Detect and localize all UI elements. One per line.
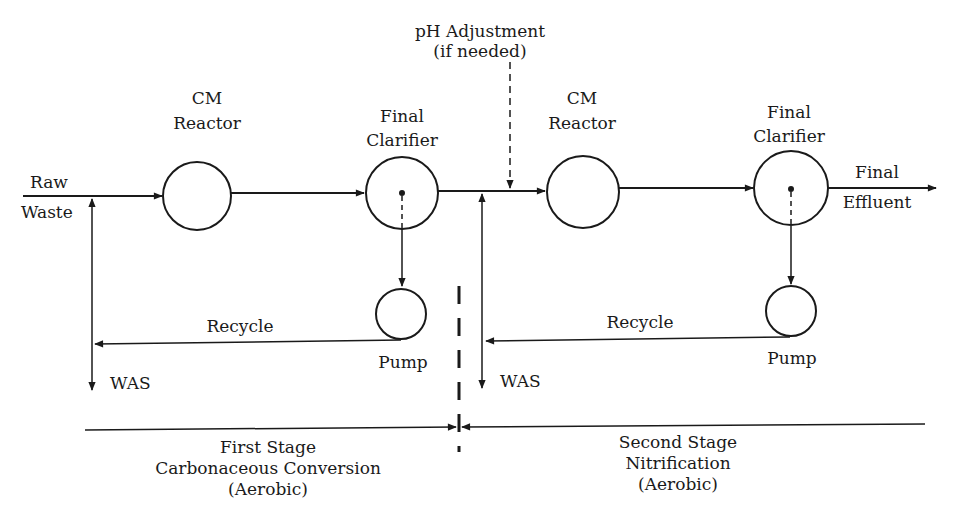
stage1-cm-reactor — [163, 162, 231, 230]
stage1-clarifier-label: Final — [380, 106, 424, 126]
stage1-recycle-line — [95, 340, 401, 344]
stage2-description: Second Stage — [619, 432, 737, 452]
stage1-recycle-label: Recycle — [206, 316, 273, 336]
stage2-recycle-line — [486, 337, 790, 341]
stage1-reactor-label: CM — [192, 88, 222, 108]
stage1-pump-label: Pump — [378, 352, 428, 372]
stage2-clarifier-center-dot — [789, 187, 793, 191]
stage2-clarifier-label: Final — [767, 102, 811, 122]
stage2-description-line2: Nitrification — [625, 453, 730, 473]
stage2-recycle-label: Recycle — [606, 312, 673, 332]
stage2-pump-label: Pump — [767, 348, 817, 368]
stage1-description: First Stage — [220, 437, 316, 457]
raw-waste-label: Raw — [30, 172, 68, 192]
stage2-pump — [766, 286, 816, 336]
stage1-description-line3: (Aerobic) — [228, 479, 308, 499]
stage1-reactor-label-line2: Reactor — [173, 113, 242, 133]
stage2-description-line3: (Aerobic) — [638, 474, 718, 494]
stage1-was-label: WAS — [110, 373, 151, 393]
final-effluent-label: Final — [855, 162, 899, 182]
stage1-extent-line — [85, 427, 456, 430]
stage2-was-label: WAS — [500, 371, 541, 391]
stage2-reactor-label: CM — [567, 88, 597, 108]
stage1-clarifier-center-dot — [400, 191, 404, 195]
final-effluent-label-line2: Effluent — [843, 192, 912, 212]
stage2-cm-reactor — [547, 156, 619, 228]
stage1-pump — [376, 289, 426, 339]
stage1-description-line2: Carbonaceous Conversion — [155, 458, 381, 478]
stage1-clarifier-label-line2: Clarifier — [366, 130, 439, 150]
ph-adjustment-label-line2: (if needed) — [433, 41, 526, 61]
process-flow-diagram: Raw Waste CM Reactor Final Clarifier pH … — [0, 0, 958, 526]
stage2-reactor-label-line2: Reactor — [548, 113, 617, 133]
raw-waste-label-line2: Waste — [21, 202, 73, 222]
ph-adjustment-label: pH Adjustment — [415, 21, 545, 41]
stage2-extent-line — [462, 424, 925, 427]
stage2-clarifier-label-line2: Clarifier — [753, 126, 826, 146]
